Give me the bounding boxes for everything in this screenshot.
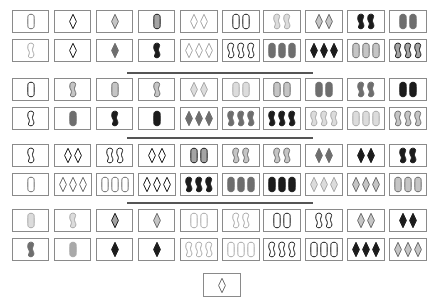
card-g2-r1-c4[interactable] [138, 78, 175, 101]
card-g2-r1-c2[interactable] [54, 78, 91, 101]
card-g2-r2-c8[interactable] [305, 107, 343, 130]
oval-icon [351, 110, 381, 127]
card-g4-r1-c4[interactable] [138, 209, 175, 232]
card-g1-r1-c9[interactable] [347, 10, 385, 33]
card-g4-r1-c6[interactable] [222, 209, 260, 232]
card-g3-r2-c6[interactable] [222, 173, 260, 196]
card-g3-r2-c8[interactable] [305, 173, 343, 196]
oval-icon [152, 110, 162, 127]
card-g1-r2-c3[interactable] [96, 39, 133, 62]
card-g4-r1-c10[interactable] [389, 209, 427, 232]
card-g2-r1-c8[interactable] [305, 78, 343, 101]
card-g1-r2-c1[interactable] [12, 39, 49, 62]
oval-icon [26, 176, 36, 193]
card-g2-r2-c4[interactable] [138, 107, 175, 130]
card-g2-r2-c5[interactable] [180, 107, 218, 130]
card-g4-r1-c5[interactable] [180, 209, 218, 232]
current-card[interactable] [203, 273, 241, 297]
diamond-icon [351, 241, 381, 258]
card-g2-r1-c6[interactable] [222, 78, 260, 101]
card-g3-r2-c10[interactable] [389, 173, 427, 196]
card-g4-r1-c3[interactable] [96, 209, 133, 232]
card-g3-r2-c7[interactable] [263, 173, 301, 196]
card-g3-r1-c7[interactable] [263, 144, 301, 167]
card-g3-r2-c4[interactable] [138, 173, 176, 196]
card-g4-r2-c1[interactable] [12, 238, 49, 261]
card-g4-r2-c6[interactable] [222, 238, 260, 261]
card-g2-r2-c6[interactable] [222, 107, 260, 130]
card-g4-r2-c8[interactable] [305, 238, 343, 261]
card-g3-r1-c6[interactable] [222, 144, 260, 167]
card-g1-r1-c6[interactable] [222, 10, 260, 33]
diamond-icon [152, 212, 162, 229]
card-g2-r2-c3[interactable] [96, 107, 133, 130]
card-g2-r2-c1[interactable] [12, 107, 49, 130]
card-g2-r1-c3[interactable] [96, 78, 133, 101]
card-g1-r2-c7[interactable] [263, 39, 301, 62]
card-g1-r2-c10[interactable] [389, 39, 427, 62]
card-g3-r1-c5[interactable] [180, 144, 218, 167]
diamond-icon [351, 176, 381, 193]
oval-icon [314, 81, 334, 98]
card-g4-r2-c5[interactable] [180, 238, 218, 261]
card-g2-r2-c10[interactable] [389, 107, 427, 130]
card-g1-r2-c8[interactable] [305, 39, 343, 62]
card-g3-r1-c8[interactable] [305, 144, 343, 167]
card-g2-r2-c9[interactable] [347, 107, 385, 130]
card-g1-r2-c5[interactable] [180, 39, 218, 62]
card-g4-r2-c3[interactable] [96, 238, 133, 261]
card-g2-r1-c5[interactable] [180, 78, 218, 101]
card-g1-r1-c10[interactable] [389, 10, 427, 33]
card-g3-r1-c3[interactable] [96, 144, 133, 167]
oval-icon [226, 241, 256, 258]
card-g4-r2-c10[interactable] [389, 238, 427, 261]
oval-icon [398, 81, 418, 98]
diamond-icon [147, 147, 167, 164]
oval-icon [189, 147, 209, 164]
diamond-icon [110, 241, 120, 258]
card-g3-r2-c1[interactable] [12, 173, 49, 196]
card-g4-r1-c7[interactable] [263, 209, 301, 232]
diamond-icon [142, 176, 172, 193]
card-g1-r2-c6[interactable] [222, 39, 260, 62]
card-g1-r2-c4[interactable] [138, 39, 175, 62]
card-g4-r2-c2[interactable] [54, 238, 91, 261]
card-g4-r1-c9[interactable] [347, 209, 385, 232]
card-g1-r1-c3[interactable] [96, 10, 133, 33]
card-g3-r2-c2[interactable] [54, 173, 92, 196]
card-g1-r2-c9[interactable] [347, 39, 385, 62]
card-g3-r2-c3[interactable] [96, 173, 134, 196]
card-g1-r2-c2[interactable] [54, 39, 91, 62]
squiggle-icon [26, 110, 36, 127]
squiggle-icon [393, 110, 423, 127]
card-g4-r2-c4[interactable] [138, 238, 175, 261]
card-g4-r2-c7[interactable] [263, 238, 301, 261]
group-divider [127, 137, 313, 139]
card-g1-r1-c8[interactable] [305, 10, 343, 33]
card-g1-r1-c2[interactable] [54, 10, 91, 33]
card-g2-r1-c10[interactable] [389, 78, 427, 101]
card-g1-r1-c5[interactable] [180, 10, 218, 33]
card-g4-r2-c9[interactable] [347, 238, 385, 261]
card-g2-r1-c9[interactable] [347, 78, 385, 101]
card-g1-r1-c4[interactable] [138, 10, 175, 33]
diamond-icon [314, 13, 334, 30]
card-g3-r2-c9[interactable] [347, 173, 385, 196]
card-g3-r1-c4[interactable] [138, 144, 175, 167]
card-g1-r1-c1[interactable] [12, 10, 49, 33]
squiggle-icon [105, 147, 125, 164]
card-g4-r1-c1[interactable] [12, 209, 49, 232]
card-g3-r1-c10[interactable] [389, 144, 427, 167]
card-g3-r2-c5[interactable] [180, 173, 218, 196]
card-g2-r1-c7[interactable] [263, 78, 301, 101]
card-g4-r1-c2[interactable] [54, 209, 91, 232]
card-g3-r1-c9[interactable] [347, 144, 385, 167]
card-g3-r1-c2[interactable] [54, 144, 91, 167]
card-g1-r1-c7[interactable] [263, 10, 301, 33]
card-g4-r1-c8[interactable] [305, 209, 343, 232]
card-g2-r1-c1[interactable] [12, 78, 49, 101]
diamond-icon [110, 42, 120, 59]
card-g2-r2-c2[interactable] [54, 107, 91, 130]
card-g2-r2-c7[interactable] [263, 107, 301, 130]
card-g3-r1-c1[interactable] [12, 144, 49, 167]
